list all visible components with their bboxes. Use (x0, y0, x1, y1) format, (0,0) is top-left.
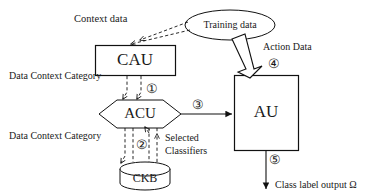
class-label-output-label: Class label output Ω (275, 180, 357, 190)
flow-cau-to-acu (123, 76, 141, 99)
action-data-label: Action Data (263, 42, 312, 52)
acu-label: ACU (100, 105, 180, 122)
selected-classifiers-label-line2: Classifiers (165, 146, 207, 156)
cau-label: CAU (95, 50, 175, 70)
context-data-label: Context data (74, 14, 127, 25)
ckb-label: CKB (120, 171, 170, 186)
step-marker-2: ② (136, 138, 148, 151)
data-context-category-label-1: Data Context Category (9, 71, 101, 81)
action-data-block-arrow (232, 34, 262, 78)
context-data-dashed-arrows (131, 22, 190, 44)
step-marker-5: ⑤ (269, 153, 281, 166)
step-marker-1: ① (146, 82, 158, 95)
step-marker-3: ③ (192, 98, 204, 111)
au-label: AU (234, 102, 298, 122)
data-context-category-label-2: Data Context Category (9, 131, 101, 141)
training-data-label: Training data (185, 19, 275, 30)
selected-classifiers-label-line1: Selected (165, 133, 199, 143)
step-marker-4: ④ (268, 57, 280, 70)
diagram-canvas: CAU ACU AU CKB Training data Context dat… (0, 0, 373, 196)
